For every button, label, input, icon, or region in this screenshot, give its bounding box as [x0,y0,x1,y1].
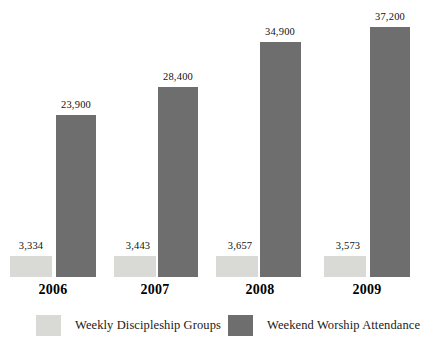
legend-swatch-icon-dark [228,315,253,336]
x-tick-label-2008: 2008 [220,282,300,298]
legend-label-dark: Weekend Worship Attendance [267,318,420,333]
bar-light-2007[interactable] [114,256,156,277]
bar-group-2008: 3,657 34,900 [208,0,312,277]
bar-dark-2007[interactable] [158,87,198,277]
bar-group-2009: 3,573 37,200 [310,0,414,277]
bar-light-2006[interactable] [10,256,52,277]
bar-value-dark-2009: 37,200 [355,11,425,22]
legend-swatch-icon-light [36,315,61,336]
x-tick-label-2006: 2006 [13,282,93,298]
x-axis: 2006 2007 2008 2009 [0,277,414,305]
bar-dark-2008[interactable] [260,42,301,277]
bar-group-2006: 3,334 23,900 [0,0,104,277]
bar-light-2008[interactable] [216,256,258,277]
bar-value-dark-2008: 34,900 [245,26,315,37]
x-tick-label-2007: 2007 [115,282,195,298]
bar-dark-2006[interactable] [56,115,96,277]
legend-entry-weekly-discipleship-groups[interactable]: Weekly Discipleship Groups [36,315,221,336]
chart-legend: Weekly Discipleship Groups Weekend Worsh… [0,308,414,360]
x-tick-label-2009: 2009 [327,282,407,298]
bar-light-2009[interactable] [324,256,366,277]
bar-group-2007: 3,443 28,400 [104,0,208,277]
bar-dark-2009[interactable] [370,27,410,277]
plot-area: 3,334 23,900 3,443 28,400 3,657 34,900 3… [0,0,414,277]
bar-value-dark-2006: 23,900 [41,99,111,110]
legend-entry-weekend-worship-attendance[interactable]: Weekend Worship Attendance [228,315,420,336]
legend-label-light: Weekly Discipleship Groups [75,318,221,333]
bar-value-dark-2007: 28,400 [143,71,213,82]
